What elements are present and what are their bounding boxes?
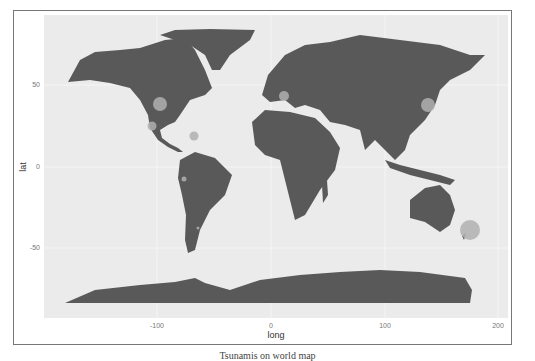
x-axis: -100 0 100 200 long [150,322,504,340]
y-axis-label: lat [18,162,28,172]
x-tick-neg100: -100 [150,322,164,329]
x-tick-100: 100 [379,322,391,329]
y-tick-50: 50 [32,81,40,88]
y-tick-neg50: -50 [30,244,40,251]
point-chile [197,227,200,230]
point-japan [421,98,435,112]
figure-caption: Tsunamis on world map [0,350,535,361]
y-tick-0: 0 [36,163,40,170]
y-axis: 50 0 -50 lat [18,81,40,251]
point-new-zealand [460,220,480,240]
x-tick-0: 0 [269,322,273,329]
x-axis-label: long [267,330,284,340]
point-caribbean [190,132,199,141]
point-italy [279,91,289,101]
x-tick-200: 200 [492,322,504,329]
point-mexico [148,122,157,131]
point-usa [153,97,167,111]
point-peru [182,177,187,182]
